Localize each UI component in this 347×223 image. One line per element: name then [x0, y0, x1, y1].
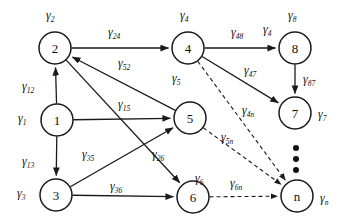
edge-label-87: γ87: [303, 73, 315, 88]
edge-label-24: γ24: [108, 26, 120, 41]
ellipsis-dot-2: [293, 156, 299, 162]
node-rate-label-n-rate-n: γn: [320, 192, 328, 207]
node-label-8: 8: [292, 41, 299, 56]
node-rate-label-2-rate-2: γ2: [46, 9, 54, 24]
edge-n5-to-nn: [203, 128, 281, 185]
edge-n6-to-nn: [209, 196, 277, 197]
edge-n1-to-n3: [56, 136, 57, 175]
edge-label-13: γ13: [22, 155, 34, 170]
node-label-7: 7: [292, 106, 299, 121]
edge-n1-to-n2: [56, 67, 57, 103]
edge-n3-to-n6: [72, 195, 173, 196]
node-rate-label-5-rate-5: γ5: [172, 72, 180, 87]
node-label-n: n: [294, 189, 301, 204]
graph-diagram: 12345678n γ12γ13γ15γ24γ26γ35γ36γ52γ48γ47…: [0, 0, 347, 223]
edge-n4-to-n7: [202, 57, 278, 103]
edge-label-4n: γ4n: [242, 104, 254, 119]
nodes-layer: 12345678n: [39, 32, 313, 213]
node-rate-label-3-rate-3: γ3: [17, 187, 25, 202]
node-label-3: 3: [53, 188, 60, 203]
ellipsis-dot-1: [293, 145, 299, 151]
node-rate-label-8-rate-8: γ8: [288, 9, 296, 24]
edge-label-15: γ15: [118, 98, 130, 113]
edge-n2-to-n6: [66, 60, 180, 183]
node-label-2: 2: [52, 41, 59, 56]
edge-label-36: γ36: [110, 180, 122, 195]
ellipsis-dot-3: [293, 167, 299, 173]
edge-n4-to-nn: [198, 61, 286, 180]
node-rate-label-6-rate-6: γ6: [195, 172, 203, 187]
node-label-1: 1: [54, 113, 61, 128]
edge-label-12: γ12: [22, 80, 34, 95]
graph-canvas: 12345678n: [0, 0, 347, 223]
edge-label-6n: γ6n: [230, 177, 242, 192]
edge-label-48: γ48: [231, 26, 243, 41]
node-label-4: 4: [185, 41, 192, 56]
edge-label-52: γ52: [118, 57, 130, 72]
node-rate-label-7-rate-7: γ7: [318, 108, 326, 123]
node-rate-label-4-rate-4: γ4: [180, 9, 188, 24]
edge-label-5n: γ5n: [221, 131, 233, 146]
node-rate-label-1-rate-1: γ1: [18, 112, 26, 127]
edge-label-47: γ47: [244, 64, 256, 79]
edge-label-26: γ26: [152, 148, 164, 163]
node-label-6: 6: [190, 190, 197, 205]
edge-label-35: γ35: [82, 148, 94, 163]
node-label-5: 5: [187, 111, 194, 126]
node-rate-label-4-rate-4b: γ4: [263, 23, 271, 38]
